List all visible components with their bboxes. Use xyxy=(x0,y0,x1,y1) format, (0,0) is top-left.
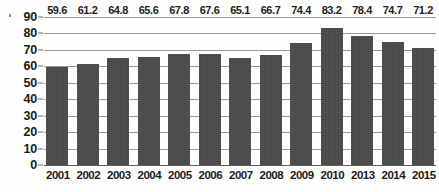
y-tick-label-0: 0 xyxy=(7,159,37,172)
bar-slot: 61.2 xyxy=(77,17,99,165)
bar-value-label: 59.6 xyxy=(47,5,67,16)
bar-slot: 67.8 xyxy=(168,17,190,165)
x-tick-label-2013: 2013 xyxy=(351,170,373,188)
x-tick-label-2009: 2009 xyxy=(290,170,312,188)
y-tick-label-70: 70 xyxy=(7,44,37,57)
y-tick-label-80: 80 xyxy=(7,27,37,40)
x-axis: 2001200220032004200520062007200820092010… xyxy=(44,170,436,188)
bar-slot: 67.6 xyxy=(199,17,221,165)
x-tick-label-2002: 2002 xyxy=(77,170,99,188)
bar-slot: 74.4 xyxy=(290,17,312,165)
y-tick-label-40: 40 xyxy=(7,93,37,106)
y-tick-mark-0 xyxy=(38,165,43,166)
bar-slot: 78.4 xyxy=(351,17,373,165)
bar[interactable]: 64.8 xyxy=(107,58,129,165)
bar-value-label: 66.7 xyxy=(261,5,281,16)
bar-slot: 66.7 xyxy=(260,17,282,165)
y-tick-mark-40 xyxy=(38,99,43,100)
bar-value-label: 67.6 xyxy=(200,5,220,16)
bar-series: 59.661.264.865.667.867.665.166.774.483.2… xyxy=(44,17,436,165)
bar[interactable]: 83.2 xyxy=(321,28,343,165)
bar-slot: 65.6 xyxy=(138,17,160,165)
x-tick-label-2004: 2004 xyxy=(138,170,160,188)
x-tick-label-2010: 2010 xyxy=(321,170,343,188)
y-tick-label-10: 10 xyxy=(7,142,37,155)
bar-value-label: 78.4 xyxy=(352,5,372,16)
bar-chart: 0102030405060708090 59.661.264.865.667.8… xyxy=(0,0,439,192)
bar-value-label: 61.2 xyxy=(78,5,98,16)
x-tick-label-2015: 2015 xyxy=(412,170,434,188)
bar[interactable]: 71.2 xyxy=(412,48,434,165)
bar[interactable]: 66.7 xyxy=(260,55,282,165)
y-tick-mark-90 xyxy=(38,17,43,18)
bar[interactable]: 67.8 xyxy=(168,54,190,165)
bar[interactable]: 67.6 xyxy=(199,54,221,165)
bar-value-label: 65.1 xyxy=(230,5,250,16)
y-tick-label-20: 20 xyxy=(7,126,37,139)
y-tick-label-30: 30 xyxy=(7,109,37,122)
y-tick-mark-80 xyxy=(38,33,43,34)
x-tick-label-2003: 2003 xyxy=(107,170,129,188)
plot-area: 0102030405060708090 59.661.264.865.667.8… xyxy=(44,17,436,165)
bar-value-label: 74.4 xyxy=(291,5,311,16)
bar[interactable]: 78.4 xyxy=(351,36,373,165)
y-tick-mark-10 xyxy=(38,148,43,149)
bar-slot: 71.2 xyxy=(412,17,434,165)
x-tick-label-2001: 2001 xyxy=(46,170,68,188)
y-tick-mark-50 xyxy=(38,82,43,83)
bar-value-label: 83.2 xyxy=(322,5,342,16)
bar-value-label: 67.8 xyxy=(169,5,189,16)
bar-value-label: 74.7 xyxy=(383,5,403,16)
bar-value-label: 64.8 xyxy=(108,5,128,16)
y-tick-label-60: 60 xyxy=(7,60,37,73)
bar-slot: 83.2 xyxy=(321,17,343,165)
bar[interactable]: 61.2 xyxy=(77,64,99,165)
x-tick-label-2006: 2006 xyxy=(199,170,221,188)
bar[interactable]: 65.1 xyxy=(229,58,251,165)
bar-value-label: 71.2 xyxy=(413,5,433,16)
x-tick-label-2014: 2014 xyxy=(382,170,404,188)
bar[interactable]: 65.6 xyxy=(138,57,160,165)
bar-slot: 65.1 xyxy=(229,17,251,165)
bar[interactable]: 74.7 xyxy=(382,42,404,165)
y-tick-mark-70 xyxy=(38,49,43,50)
y-tick-mark-60 xyxy=(38,66,43,67)
x-tick-label-2008: 2008 xyxy=(260,170,282,188)
bar-value-label: 65.6 xyxy=(139,5,159,16)
y-tick-label-50: 50 xyxy=(7,77,37,90)
bar[interactable]: 74.4 xyxy=(290,43,312,165)
gridline-0 xyxy=(44,165,436,166)
bar-slot: 64.8 xyxy=(107,17,129,165)
bar-slot: 74.7 xyxy=(382,17,404,165)
y-tick-mark-20 xyxy=(38,132,43,133)
bar-slot: 59.6 xyxy=(46,17,68,165)
y-tick-label-90: 90 xyxy=(7,11,37,24)
bar[interactable]: 59.6 xyxy=(46,67,68,165)
x-tick-label-2005: 2005 xyxy=(168,170,190,188)
y-tick-mark-30 xyxy=(38,115,43,116)
x-tick-label-2007: 2007 xyxy=(229,170,251,188)
